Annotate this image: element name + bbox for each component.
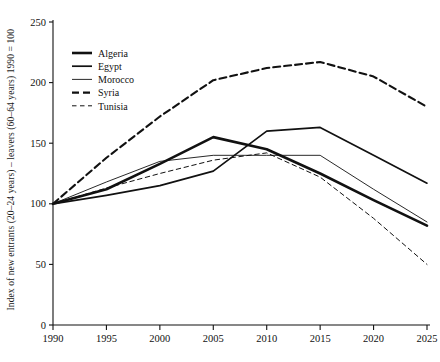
y-axis-tick-label: 100 <box>30 198 46 209</box>
y-axis-tick-label: 0 <box>41 320 46 331</box>
legend-label-syria: Syria <box>98 87 120 98</box>
legend-label-tunisia: Tunisia <box>98 101 128 112</box>
x-axis-tick-label: 2015 <box>310 333 331 344</box>
x-axis-tick-label: 2000 <box>149 333 170 344</box>
y-axis-tick-label: 250 <box>30 17 46 28</box>
x-axis-tick-label: 2020 <box>363 333 384 344</box>
x-axis-tick-label: 1995 <box>96 333 117 344</box>
x-axis-tick-label: 2005 <box>203 333 224 344</box>
chart-figure: Index of new entrants (20–24 years) – le… <box>0 0 440 362</box>
y-axis-tick-label: 150 <box>30 138 46 149</box>
y-axis-tick-label: 200 <box>30 77 46 88</box>
y-axis-tick-label: 50 <box>36 259 47 270</box>
series-line-egypt <box>53 127 427 203</box>
x-axis-tick-label: 2010 <box>256 333 277 344</box>
legend-label-algeria: Algeria <box>98 48 129 59</box>
series-line-tunisia <box>53 153 427 265</box>
x-axis-tick-label: 1990 <box>43 333 64 344</box>
legend-label-egypt: Egypt <box>98 61 122 72</box>
x-axis-tick-label: 2025 <box>417 333 438 344</box>
line-chart-canvas: 0501001502002501990199520002005201020152… <box>0 0 440 362</box>
legend-label-morocco: Morocco <box>98 74 134 85</box>
